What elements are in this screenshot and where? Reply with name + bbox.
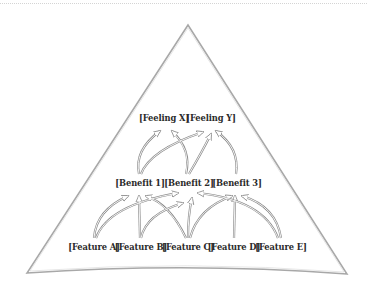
benefit-3-label: [Benefit 3] bbox=[212, 178, 262, 188]
feeling-x-label: [Feeling X] bbox=[139, 113, 189, 123]
feature-a-label: [Feature A] bbox=[68, 242, 120, 252]
benefit-1-label: [Benefit 1] bbox=[115, 178, 165, 188]
feature-e-label: [Feature E] bbox=[255, 242, 307, 252]
benefit-2-label: [Benefit 2] bbox=[164, 178, 214, 188]
feature-d-label: [Feature D] bbox=[208, 242, 260, 252]
feature-b-label: [Feature B] bbox=[115, 242, 167, 252]
feeling-y-label: [Feeling Y] bbox=[186, 113, 236, 123]
feature-c-label: [Feature C] bbox=[162, 242, 214, 252]
